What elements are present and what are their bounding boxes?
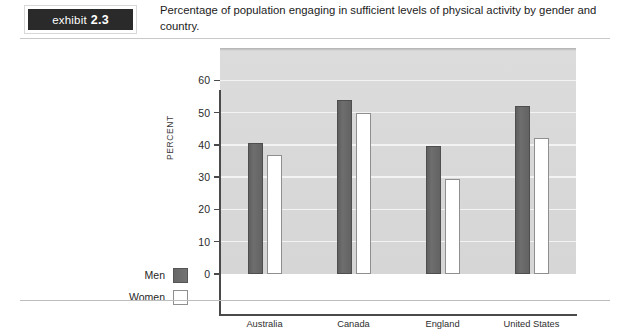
- x-axis-tick-label: Canada: [337, 319, 370, 329]
- exhibit-caption: Percentage of population engaging in suf…: [160, 3, 615, 34]
- y-axis-tick-label: 40: [184, 140, 210, 150]
- bar-women-australia: [267, 155, 282, 274]
- y-axis-tick-mark: [214, 144, 220, 146]
- exhibit-badge-word: exhibit: [52, 14, 87, 26]
- exhibit-badge: exhibit 2.3: [25, 6, 136, 33]
- legend-swatch-men-icon: [173, 268, 188, 283]
- bar-women-england: [445, 179, 460, 274]
- y-axis-tick-label: 10: [184, 237, 210, 247]
- exhibit-header: exhibit 2.3 Percentage of population eng…: [0, 0, 628, 42]
- y-axis-tick-label: 20: [184, 204, 210, 214]
- header-divider: [20, 38, 610, 39]
- legend-item-men: Men: [78, 264, 188, 286]
- y-axis-tick-mark: [214, 209, 220, 211]
- y-axis-tick-labels: 0102030405060: [182, 42, 210, 300]
- legend-label-men: Men: [145, 269, 165, 281]
- y-axis-tick-label: 50: [184, 108, 210, 118]
- y-axis-tick-mark: [214, 273, 220, 275]
- y-axis-tick-mark: [214, 112, 220, 114]
- bar-women-canada: [356, 113, 371, 274]
- y-axis-title: PERCENT: [165, 115, 175, 160]
- x-axis-line: [219, 314, 577, 316]
- x-axis-tick-label: Australia: [246, 319, 282, 329]
- y-axis-tick-mark: [214, 176, 220, 178]
- plot-area: [220, 48, 576, 274]
- legend-swatch-women-icon: [173, 290, 188, 305]
- exhibit-badge-number: 2.3: [91, 13, 109, 27]
- x-axis-tick-label: England: [425, 319, 459, 329]
- legend-item-women: Women: [78, 286, 188, 308]
- footer-divider: [20, 300, 610, 301]
- y-axis-line: [219, 90, 221, 315]
- bar-chart: 0102030405060 PERCENT Men Women Australi…: [0, 42, 628, 300]
- y-axis-tick-label: 60: [184, 75, 210, 85]
- bar-men-united-states: [515, 106, 530, 274]
- x-axis-tick-label: United States: [504, 319, 560, 329]
- y-axis-tick-mark: [214, 80, 220, 82]
- gridline: [220, 80, 576, 82]
- y-axis-tick-mark: [214, 241, 220, 243]
- y-axis-tick-label: 30: [184, 172, 210, 182]
- bar-men-england: [426, 146, 441, 274]
- bar-women-united-states: [534, 138, 549, 274]
- bar-men-australia: [248, 143, 263, 274]
- bar-men-canada: [337, 100, 352, 274]
- legend-label-women: Women: [129, 291, 165, 303]
- chart-legend: Men Women: [78, 264, 188, 308]
